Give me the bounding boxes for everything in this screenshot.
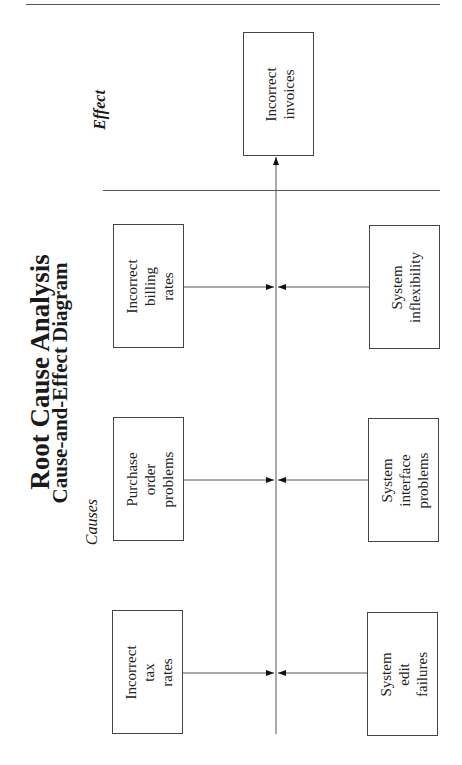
effect-line: invoices [279,33,297,157]
effect-box: Incorrect invoices [243,32,314,156]
cause-line: System [387,226,405,350]
cause-line: Purchase [122,418,140,542]
cause-box-system-inflexibility: System inflexibility [369,225,440,349]
cause-line: billing [140,225,158,349]
cause-box-purchase-order-problems: Purchase order problems [113,417,184,541]
cause-box-incorrect-billing-rates: Incorrect billing rates [113,224,184,348]
cause-line: System [377,419,395,543]
causes-label: Causes [82,492,102,552]
cause-line: order [140,418,158,542]
cause-line: inflexibility [405,226,423,350]
cause-line: tax [139,611,157,735]
cause-line: rates [158,225,176,349]
cause-text: System interface problems [369,419,440,543]
cause-line: rates [157,611,175,735]
cause-line: failures [412,613,430,737]
cause-line: System [376,613,394,737]
cause-line: edit [394,613,412,737]
cause-line: interface [395,419,413,543]
cause-line: Incorrect [122,225,140,349]
effect-text: Incorrect invoices [244,33,315,157]
cause-text: Incorrect billing rates [114,225,185,349]
cause-text: Purchase order problems [114,418,185,542]
diagram-subtitle: Cause-and-Effect Diagram [47,233,73,533]
cause-text: System edit failures [368,613,439,737]
cause-text: System inflexibility [370,226,441,350]
cause-box-incorrect-tax-rates: Incorrect tax rates [112,610,183,734]
cause-text: Incorrect tax rates [113,611,184,735]
effect-label: Effect [90,80,110,140]
cause-line: problems [158,418,176,542]
cause-line: problems [413,419,431,543]
cause-box-system-edit-failures: System edit failures [367,612,438,736]
cause-line: Incorrect [121,611,139,735]
effect-line: Incorrect [261,33,279,157]
cause-box-system-interface-problems: System interface problems [368,418,439,542]
